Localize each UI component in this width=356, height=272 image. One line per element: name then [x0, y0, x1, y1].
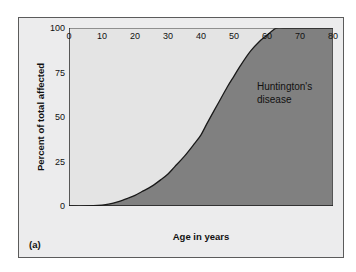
y-tick-label: 0 — [60, 201, 65, 211]
x-tick-label: 20 — [130, 31, 140, 41]
x-axis-label: Age in years — [69, 231, 333, 242]
chart-panel: Percent of total affected 0255075100 010 — [18, 17, 344, 258]
x-tick-label: 60 — [262, 31, 272, 41]
x-tick-label: 40 — [196, 31, 206, 41]
y-axis-label: Percent of total affected — [33, 28, 49, 206]
x-tick-label: 50 — [229, 31, 239, 41]
panel-label: (a) — [29, 239, 41, 250]
y-axis-label-text: Percent of total affected — [33, 28, 49, 206]
y-tick-label: 100 — [50, 23, 65, 33]
figure-panel: Percent of total affected 0255075100 010 — [0, 0, 356, 272]
plot-area: 0255075100 01020304050607080 Huntington'… — [69, 28, 333, 206]
annotation-line-2: disease — [257, 94, 291, 105]
area-chart-svg — [69, 28, 333, 206]
y-tick-label: 50 — [55, 112, 65, 122]
y-tick-label: 75 — [55, 68, 65, 78]
series-annotation: Huntington'sdisease — [257, 80, 312, 106]
x-tick-label: 70 — [295, 31, 305, 41]
x-tick-label: 10 — [97, 31, 107, 41]
y-tick-label: 25 — [55, 157, 65, 167]
annotation-line-1: Huntington's — [257, 81, 312, 92]
x-tick-label: 30 — [163, 31, 173, 41]
x-tick-label: 80 — [328, 31, 338, 41]
x-tick-label: 0 — [66, 31, 71, 41]
